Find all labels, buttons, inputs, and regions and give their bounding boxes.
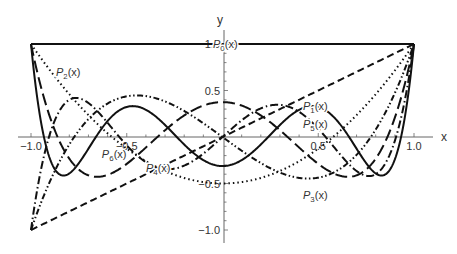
label-p2: P2(x)	[56, 66, 81, 81]
y-tick-label: −1.0	[198, 224, 220, 236]
label-p1: P1(x)	[303, 100, 328, 115]
y-tick-label: 0.5	[205, 85, 220, 97]
y-axis-label: y	[217, 13, 223, 27]
x-axis-label: x	[441, 130, 447, 144]
label-p5: P5(x)	[303, 118, 328, 133]
x-tick-label: −1.0	[20, 140, 42, 152]
x-tick-label: 0.5	[311, 140, 326, 152]
label-p6: P6(x)	[102, 148, 127, 163]
label-p4: P4(x)	[146, 162, 171, 177]
curve-p4	[31, 44, 414, 177]
curve-labels: P0(x)P1(x)P2(x)P3(x)P4(x)P5(x)P6(x)	[56, 38, 328, 204]
label-p0: P0(x)	[213, 38, 238, 53]
y-tick-label: −0.5	[198, 178, 220, 190]
label-p3: P3(x)	[303, 189, 328, 204]
x-tick-label: 1.0	[406, 140, 421, 152]
curve-p2	[31, 44, 414, 184]
legendre-polynomials-chart: −1.0−0.50.51.0−1.0−0.50.51.0xy P0(x)P1(x…	[0, 0, 457, 254]
